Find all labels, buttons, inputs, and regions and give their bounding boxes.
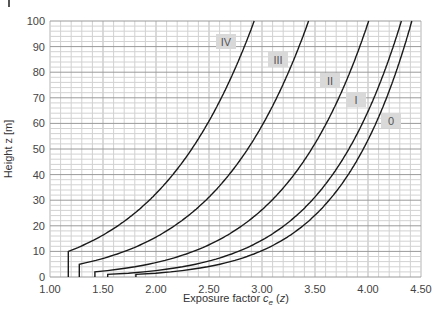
exposure-factor-chart: 0IIIIIIIV 1.001.502.002.503.003.504.004.…	[0, 0, 445, 323]
y-tick-label: 30	[33, 194, 45, 206]
grid	[50, 21, 421, 277]
y-tick-label: 70	[33, 92, 45, 104]
y-tick-label: 80	[33, 66, 45, 78]
x-axis-label: Exposure factor ce (z)	[183, 292, 289, 307]
y-axis-label: Height z [m]	[2, 120, 14, 179]
y-tick-label: 0	[39, 271, 45, 283]
x-tick-label: 4.50	[410, 283, 431, 295]
curve-label-0: 0	[388, 115, 394, 127]
curve-label-II: II	[327, 75, 333, 87]
y-tick-label: 60	[33, 117, 45, 129]
y-tick-label: 50	[33, 143, 45, 155]
y-tick-label: 100	[27, 15, 45, 27]
curve-label-I: I	[354, 94, 357, 106]
x-tick-label: 3.50	[304, 283, 325, 295]
y-tick-label: 20	[33, 220, 45, 232]
y-tick-label: 10	[33, 245, 45, 257]
curve-label-III: III	[273, 54, 282, 66]
x-tick-label: 1.00	[39, 283, 60, 295]
x-tick-label: 1.50	[92, 283, 113, 295]
y-tick-label: 90	[33, 41, 45, 53]
y-tick-label: 40	[33, 169, 45, 181]
curve-label-IV: IV	[221, 36, 232, 48]
y-axis-ticks: 0102030405060708090100	[27, 15, 45, 283]
x-tick-label: 2.00	[145, 283, 166, 295]
x-tick-label: 4.00	[357, 283, 378, 295]
